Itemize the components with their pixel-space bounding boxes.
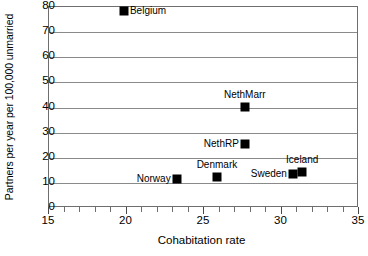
x-tick-label-20: 20 (111, 215, 141, 227)
data-label-norway: Norway (137, 174, 171, 184)
x-tick-21 (141, 207, 142, 212)
x-tick-label-15: 15 (33, 215, 63, 227)
x-tick-25 (203, 207, 204, 214)
y-tick-label-30: 30 (33, 126, 55, 138)
y-tick-label-0: 0 (33, 201, 55, 213)
gridline-y-10 (49, 183, 357, 184)
y-axis-title-text: Partners per year per 100,000 unmarried (3, 14, 15, 200)
data-label-nethrp: NethRP (204, 139, 239, 149)
data-point-sweden[interactable] (288, 170, 297, 179)
y-tick-label-50: 50 (33, 76, 55, 88)
gridline-y-40 (49, 108, 357, 109)
x-tick-label-35: 35 (343, 215, 368, 227)
y-tick-label-80: 80 (33, 0, 55, 12)
y-axis-title: Partners per year per 100,000 unmarried (0, 0, 18, 214)
x-tick-23 (172, 207, 173, 212)
x-tick-32 (312, 207, 313, 212)
x-tick-26 (219, 207, 220, 212)
x-tick-16 (64, 207, 65, 212)
data-point-nethmarr[interactable] (240, 102, 249, 111)
x-tick-35 (358, 207, 359, 214)
x-tick-19 (110, 207, 111, 212)
x-tick-20 (126, 207, 127, 214)
gridline-y-60 (49, 57, 357, 58)
data-point-iceland[interactable] (298, 167, 307, 176)
y-tick-label-70: 70 (33, 25, 55, 37)
x-tick-28 (250, 207, 251, 212)
data-point-denmark[interactable] (212, 172, 221, 181)
x-tick-label-30: 30 (266, 215, 296, 227)
x-tick-18 (95, 207, 96, 212)
x-tick-label-25: 25 (188, 215, 218, 227)
data-point-norway[interactable] (172, 175, 181, 184)
x-tick-22 (157, 207, 158, 212)
x-tick-27 (234, 207, 235, 212)
x-tick-29 (265, 207, 266, 212)
x-axis-title: Cohabitation rate (45, 234, 358, 246)
scatter-chart-figure: Partners per year per 100,000 unmarried … (0, 0, 368, 256)
gridline-y-50 (49, 82, 357, 83)
x-tick-33 (327, 207, 328, 212)
data-label-nethmarr: NethMarr (224, 90, 266, 100)
data-label-denmark: Denmark (197, 160, 238, 170)
data-point-belgium[interactable] (119, 7, 128, 16)
y-tick-label-20: 20 (33, 151, 55, 163)
x-tick-34 (343, 207, 344, 212)
x-tick-15 (48, 207, 49, 214)
plot-area (48, 6, 358, 207)
data-label-iceland: Iceland (286, 155, 318, 165)
gridline-y-30 (49, 133, 357, 134)
x-tick-31 (296, 207, 297, 212)
x-tick-30 (281, 207, 282, 214)
y-tick-label-60: 60 (33, 51, 55, 63)
data-point-nethrp[interactable] (240, 140, 249, 149)
x-tick-17 (79, 207, 80, 212)
y-tick-label-10: 10 (33, 176, 55, 188)
x-tick-24 (188, 207, 189, 212)
data-label-belgium: Belgium (130, 6, 166, 16)
gridline-y-70 (49, 32, 357, 33)
data-label-sweden: Sweden (251, 169, 287, 179)
y-tick-label-40: 40 (33, 101, 55, 113)
